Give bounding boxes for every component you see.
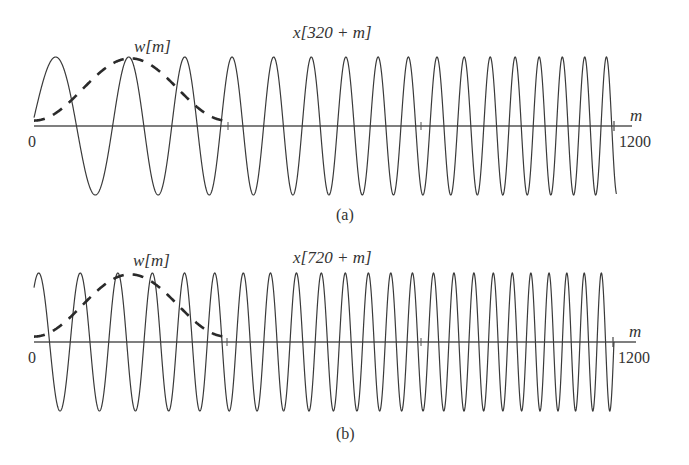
- chirp-window-figure: x[320 + m] w[m] m 0 1200 (a) x[720 + m] …: [0, 0, 689, 465]
- panel-b-title: x[720 + m]: [292, 248, 372, 267]
- panel-a-tick-label-1200: 1200: [619, 133, 651, 150]
- panel-b-caption: (b): [336, 425, 355, 443]
- panel-a-window-label: w[m]: [134, 37, 171, 56]
- panel-b-window-curve: [34, 274, 227, 336]
- panel-a-title: x[320 + m]: [292, 23, 372, 42]
- panel-a: x[320 + m] w[m] m 0 1200 (a): [28, 23, 651, 224]
- panel-a-tick-label-0: 0: [28, 133, 36, 150]
- panel-b-tick-label-0: 0: [28, 349, 36, 366]
- panel-a-caption: (a): [336, 206, 354, 224]
- panel-b-axis-label: m: [629, 322, 641, 341]
- panel-b-window-label: w[m]: [133, 251, 170, 270]
- panel-b: x[720 + m] w[m] m 0 1200 (b): [28, 248, 650, 443]
- panel-a-axis-label: m: [630, 106, 642, 125]
- panel-b-tick-label-1200: 1200: [618, 349, 650, 366]
